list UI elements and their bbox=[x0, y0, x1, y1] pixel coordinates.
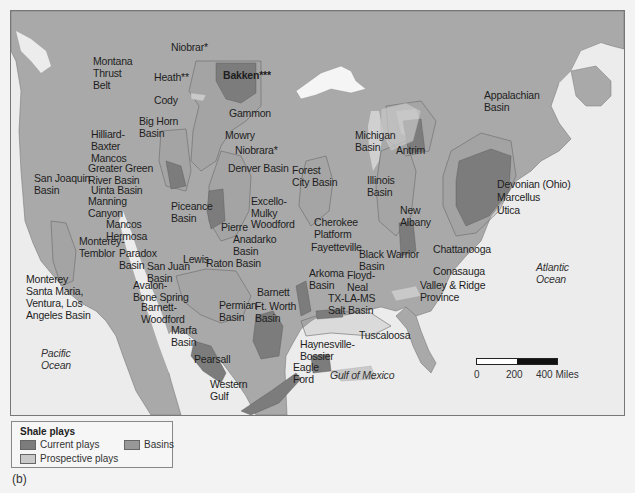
label-denver-basin: Denver Basin bbox=[228, 162, 289, 174]
legend-label-prospective-plays: Prospective plays bbox=[40, 453, 118, 464]
label-heath: Heath** bbox=[154, 71, 189, 83]
figure-caption: (b) bbox=[12, 472, 27, 486]
label-pearsall: Pearsall bbox=[194, 353, 230, 365]
label-antrim: Antrim bbox=[396, 144, 425, 156]
label-michigan-basin: Michigan Basin bbox=[355, 129, 395, 153]
label-conasauga: Conasauga bbox=[433, 265, 485, 277]
label-floyd-neal: Floyd- Neal bbox=[347, 269, 375, 293]
label-greater-green-river: Greater Green River Basin bbox=[88, 162, 153, 186]
label-marcellus: Marcellus bbox=[497, 191, 540, 203]
label-tuscaloosa: Tuscaloosa bbox=[359, 329, 410, 341]
label-permian-basin: Permian Basin bbox=[219, 299, 257, 323]
label-montana-thrust-belt: Montana Thrust Belt bbox=[93, 55, 132, 91]
label-lewis: Lewis bbox=[183, 253, 209, 265]
label-devonian-ohio: Devonian (Ohio) bbox=[497, 178, 570, 190]
legend-item-prospective-plays: Prospective plays bbox=[20, 453, 118, 464]
legend-item-basins: Basins bbox=[124, 439, 174, 450]
label-haynesville-bossier: Haynesville- Bossier bbox=[300, 338, 355, 362]
label-pierre: Pierre bbox=[221, 221, 248, 233]
label-black-warrior-basin: Black Warrior Basin bbox=[359, 248, 419, 272]
label-fayetteville: Fayetteville bbox=[311, 241, 362, 253]
scale-bar: 0 200 400 Miles bbox=[476, 358, 606, 381]
label-niobrar-north: Niobrar* bbox=[171, 41, 208, 53]
label-pacific-ocean: Pacific Ocean bbox=[41, 347, 71, 371]
label-marfa-basin: Marfa Basin bbox=[171, 324, 197, 348]
label-forest-city-basin: Forest City Basin bbox=[292, 164, 337, 188]
scale-bar-graphic bbox=[476, 358, 558, 365]
label-san-joaquin-basin: San Joaquin Basin bbox=[34, 172, 90, 196]
label-avalon-bone-spring: Avalon- Bone Spring bbox=[133, 279, 189, 303]
label-utica: Utica bbox=[497, 204, 520, 216]
label-raton-basin: Raton Basin bbox=[206, 257, 261, 269]
label-cody: Cody bbox=[154, 94, 178, 106]
label-new-albany: New Albany bbox=[400, 204, 431, 228]
label-mancos: Mancos bbox=[106, 218, 142, 230]
label-big-horn-basin: Big Horn Basin bbox=[139, 115, 178, 139]
label-atlantic-ocean: Atlantic Ocean bbox=[536, 261, 569, 285]
label-gulf-of-mexico: Gulf of Mexico bbox=[330, 369, 394, 381]
prospective-plays-swatch bbox=[20, 454, 36, 464]
shale-plays-map: Niobrar* Montana Thrust Belt Heath** Bak… bbox=[10, 10, 625, 416]
label-arkoma-basin: Arkoma Basin bbox=[309, 267, 344, 291]
legend-label-current-plays: Current plays bbox=[40, 439, 99, 450]
scale-tick-400: 400 Miles bbox=[536, 369, 579, 380]
label-piceance-basin: Piceance Basin bbox=[171, 200, 213, 224]
legend: Shale plays Current plays Prospective pl… bbox=[11, 421, 173, 468]
label-barnett: Barnett bbox=[257, 286, 289, 298]
label-eagle-ford: Eagle Ford bbox=[293, 361, 319, 385]
scale-tick-0: 0 bbox=[474, 369, 480, 380]
legend-title: Shale plays bbox=[20, 426, 75, 437]
label-barnett-woodford: Barnett- Woodford bbox=[141, 301, 185, 325]
scale-tick-200: 200 bbox=[506, 369, 523, 380]
label-gammon: Gammon bbox=[229, 107, 271, 119]
label-excello-mulky: Excello- Mulky bbox=[251, 195, 287, 219]
label-tx-la-ms-salt-basin: TX-LA-MS Salt Basin bbox=[328, 292, 375, 316]
label-monterey-santa-maria: Monterey Santa Maria, Ventura, Los Angel… bbox=[26, 273, 91, 321]
label-cherokee-platform: Cherokee Platform bbox=[314, 216, 358, 240]
label-anadarko-basin: Anadarko Basin bbox=[233, 233, 276, 257]
label-illinois-basin: Illinois Basin bbox=[367, 174, 395, 198]
label-western-gulf: Western Gulf bbox=[210, 378, 248, 402]
label-mowry: Mowry bbox=[225, 129, 255, 141]
label-hilliard-baxter-mancos: Hilliard- Baxter Mancos bbox=[91, 128, 127, 164]
label-monterey-temblor: Monterey- Temblor bbox=[79, 235, 124, 259]
label-valley-ridge-province: Valley & Ridge Province bbox=[420, 279, 485, 303]
label-niobrara: Niobrara* bbox=[235, 144, 278, 156]
label-ft-worth-basin: Ft. Worth Basin bbox=[255, 300, 296, 324]
legend-item-current-plays: Current plays bbox=[20, 439, 99, 450]
label-woodford: Woodford bbox=[251, 218, 295, 230]
basins-swatch bbox=[124, 440, 140, 450]
label-bakken: Bakken*** bbox=[223, 69, 271, 81]
label-appalachian-basin: Appalachian Basin bbox=[484, 89, 540, 113]
label-manning-canyon: Manning Canyon bbox=[88, 195, 127, 219]
label-chattanooga: Chattanooga bbox=[433, 243, 491, 255]
current-plays-swatch bbox=[20, 440, 36, 450]
legend-label-basins: Basins bbox=[144, 439, 174, 450]
